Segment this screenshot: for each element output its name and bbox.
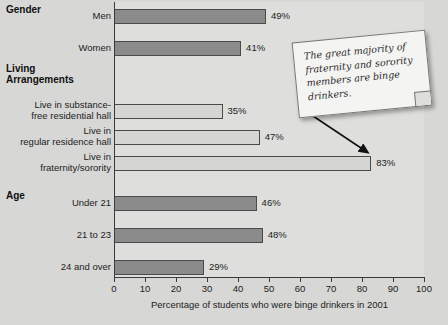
y-axis-line: [114, 2, 115, 277]
x-tick-10: [145, 278, 146, 282]
bar-under-21: [114, 196, 257, 211]
x-tick-0: [114, 278, 115, 282]
bar-value-under-21: 46%: [262, 197, 281, 208]
x-tick-label-70: 70: [316, 283, 346, 294]
x-tick-label-0: 0: [99, 283, 129, 294]
category-label-fraternity-sorority-line1: Live in: [3, 151, 111, 162]
category-label-fraternity-sorority-line2: fraternity/sorority: [3, 162, 111, 173]
x-tick-label-100: 100: [409, 283, 439, 294]
bar-regular-residence-hall: [114, 130, 260, 145]
callout-fold-corner: [414, 91, 431, 106]
x-tick-label-40: 40: [223, 283, 253, 294]
category-label-men: Men: [3, 10, 111, 21]
x-tick-70: [331, 278, 332, 282]
bar-value-24-and-over: 29%: [209, 261, 228, 272]
bar-24-and-over: [114, 260, 204, 275]
x-tick-60: [300, 278, 301, 282]
bar-value-women: 41%: [246, 42, 265, 53]
category-label-substance-free-line2: free residential hall: [3, 110, 111, 121]
category-label-regular-hall-line2: regular residence hall: [3, 136, 111, 147]
x-tick-100: [424, 278, 425, 282]
bar-value-regular-residence-hall: 47%: [265, 131, 284, 142]
x-tick-90: [393, 278, 394, 282]
category-label-substance-free-line1: Live in substance-: [3, 99, 111, 110]
bar-value-men: 49%: [271, 10, 290, 21]
callout-note-text: The great majority of fraternity and sor…: [303, 38, 426, 103]
x-tick-50: [269, 278, 270, 282]
category-label-24-and-over: 24 and over: [3, 261, 111, 272]
callout-note: The great majority of fraternity and sor…: [292, 30, 433, 118]
category-label-21-to-23: 21 to 23: [3, 229, 111, 240]
bar-chart: Gender Living Arrangements Age Men Women…: [0, 0, 448, 325]
bar-men: [114, 9, 266, 24]
x-tick-label-30: 30: [192, 283, 222, 294]
category-label-regular-hall-line1: Live in: [3, 125, 111, 136]
group-heading-living-arrangements-line1: Living: [6, 63, 35, 75]
x-tick-label-10: 10: [130, 283, 160, 294]
x-tick-label-80: 80: [347, 283, 377, 294]
group-heading-living-arrangements-line2: Arrangements: [6, 74, 74, 86]
x-tick-label-90: 90: [378, 283, 408, 294]
x-tick-label-60: 60: [285, 283, 315, 294]
category-label-women: Women: [3, 42, 111, 53]
x-tick-20: [176, 278, 177, 282]
x-tick-30: [207, 278, 208, 282]
bar-21-to-23: [114, 228, 263, 243]
category-label-under-21: Under 21: [3, 197, 111, 208]
x-axis-title: Percentage of students who were binge dr…: [114, 299, 425, 310]
bar-value-substance-free-hall: 35%: [228, 105, 247, 116]
bar-substance-free-hall: [114, 104, 223, 119]
x-tick-label-20: 20: [161, 283, 191, 294]
bar-women: [114, 41, 241, 56]
x-tick-label-50: 50: [254, 283, 284, 294]
bar-value-21-to-23: 48%: [268, 229, 287, 240]
x-tick-40: [238, 278, 239, 282]
x-tick-80: [362, 278, 363, 282]
